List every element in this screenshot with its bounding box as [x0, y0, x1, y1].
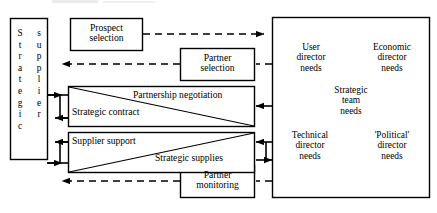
letter: i — [31, 86, 47, 98]
letter: r — [31, 109, 47, 121]
political-director-needs-label: 'Political' director needs — [357, 130, 427, 161]
strategic-supplies-label: Strategic supplies — [155, 153, 223, 163]
letter: t — [12, 74, 28, 86]
line-2: director — [278, 52, 344, 62]
line-1: Technical — [275, 130, 345, 140]
partner-monitoring-label: Partner monitoring — [181, 170, 254, 190]
line-2: director — [357, 140, 427, 150]
technical-director-needs-label: Technical director needs — [275, 130, 345, 161]
letter: l — [31, 74, 47, 86]
supplier-column-supplier: s u p p l i e r — [31, 28, 47, 121]
supplier-column-strategic: S t r a t e g i c — [12, 28, 28, 132]
line-2: team — [318, 95, 384, 105]
line-3: needs — [275, 151, 345, 161]
letter: s — [31, 28, 47, 40]
letter: u — [31, 40, 47, 52]
letter: t — [12, 40, 28, 52]
line-3: needs — [357, 63, 427, 73]
line-1: Strategic — [318, 85, 384, 95]
scan-artifact — [52, 0, 155, 3]
line-2: selection — [200, 62, 234, 73]
line-2: director — [357, 52, 427, 62]
line-2: monitoring — [196, 179, 239, 190]
letter: e — [12, 86, 28, 98]
letter: S — [12, 28, 28, 40]
strategic-contract-label: Strategic contract — [72, 107, 139, 117]
letter: a — [12, 63, 28, 75]
user-director-needs-label: User director needs — [278, 42, 344, 73]
economic-director-needs-label: Economic director needs — [357, 42, 427, 73]
letter: p — [31, 51, 47, 63]
partner-selection-label: Partner selection — [181, 53, 254, 73]
letter: p — [31, 63, 47, 75]
letter: g — [12, 98, 28, 110]
strategic-team-needs-label: Strategic team needs — [318, 85, 384, 116]
letter: i — [12, 109, 28, 121]
letter: c — [12, 121, 28, 133]
line-2: selection — [89, 32, 123, 43]
letter: r — [12, 51, 28, 63]
line-2: director — [275, 140, 345, 150]
supplier-support-label: Supplier support — [72, 136, 136, 146]
line-3: needs — [318, 106, 384, 116]
line-1: User — [278, 42, 344, 52]
line-3: needs — [278, 63, 344, 73]
line-3: needs — [357, 151, 427, 161]
line-1: Economic — [357, 42, 427, 52]
partnership-negotiation-label: Partnership negotiation — [133, 90, 222, 100]
letter: e — [31, 98, 47, 110]
diagram-canvas: S t r a t e g i c s u p p l i e r Prospe… — [0, 0, 437, 213]
prospect-selection-label: Prospect selection — [71, 23, 142, 43]
line-1: 'Political' — [357, 130, 427, 140]
